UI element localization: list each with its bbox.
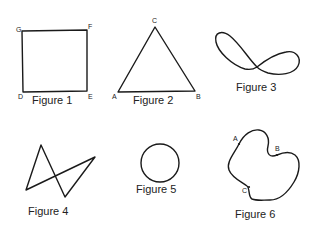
figure-3: Figure 3 bbox=[216, 33, 300, 93]
figure-4-caption: Figure 4 bbox=[28, 205, 68, 217]
figure-5: Figure 5 bbox=[136, 144, 179, 195]
point-b-marker bbox=[276, 154, 278, 156]
figure-2-caption: Figure 2 bbox=[133, 94, 173, 106]
vertex-label-f: F bbox=[88, 23, 92, 30]
vertex-label-d: D bbox=[18, 93, 23, 100]
vertex-label-g: G bbox=[16, 26, 21, 33]
point-a-marker bbox=[238, 143, 240, 145]
point-label-a: A bbox=[233, 135, 238, 142]
point-label-c: C bbox=[242, 187, 247, 194]
vertex-label-a: A bbox=[112, 93, 117, 100]
figure-eight-shape bbox=[216, 33, 300, 75]
figure-5-caption: Figure 5 bbox=[136, 183, 176, 195]
vertex-label-e: E bbox=[88, 93, 93, 100]
figure-1-caption: Figure 1 bbox=[32, 94, 72, 106]
point-label-b: B bbox=[275, 145, 280, 152]
figure-6: A B C Figure 6 bbox=[228, 130, 299, 220]
circle-shape bbox=[141, 144, 179, 182]
triangle-shape bbox=[118, 27, 195, 92]
vertex-label-b: B bbox=[196, 93, 201, 100]
figure-3-caption: Figure 3 bbox=[236, 81, 276, 93]
point-c-marker bbox=[248, 186, 250, 188]
figure-6-caption: Figure 6 bbox=[235, 208, 275, 220]
figure-2: C A B Figure 2 bbox=[112, 17, 201, 106]
zigzag-shape bbox=[26, 145, 95, 197]
figures-diagram: G F D E Figure 1 C A B Figure 2 Figure 3… bbox=[0, 0, 316, 232]
figure-4: Figure 4 bbox=[26, 145, 95, 217]
vertex-label-c: C bbox=[152, 17, 157, 24]
closed-curve-shape bbox=[228, 130, 299, 200]
figure-1: G F D E Figure 1 bbox=[16, 23, 93, 106]
square-shape bbox=[22, 30, 87, 92]
